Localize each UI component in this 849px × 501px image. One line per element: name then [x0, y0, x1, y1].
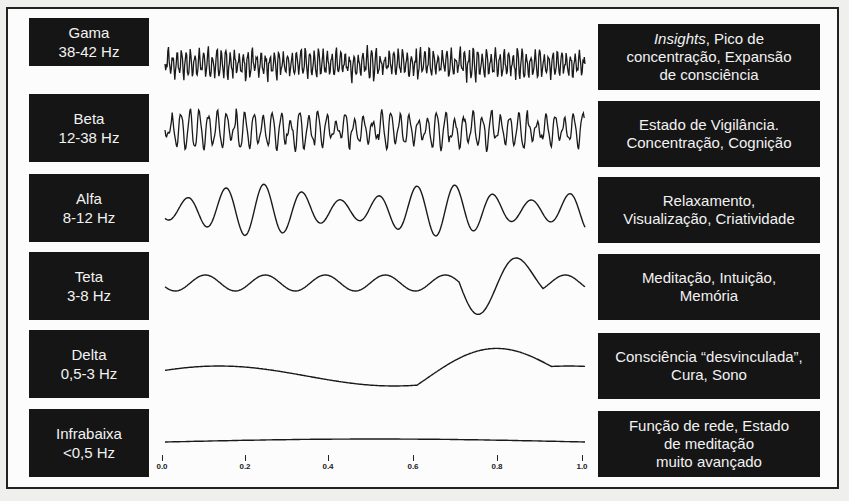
- waveform-gama: [165, 45, 585, 83]
- waveform-delta: [165, 348, 585, 386]
- axis-tick: 1.0: [567, 455, 597, 471]
- axis-tick: 0.4: [313, 455, 343, 471]
- waveform-canvas: [0, 0, 849, 501]
- waveform-alfa: [165, 184, 585, 236]
- axis-tick: 0.2: [230, 455, 260, 471]
- axis-tick: 0.6: [398, 455, 428, 471]
- waveform-beta: [165, 109, 584, 152]
- waveform-teta: [165, 258, 585, 314]
- axis-tick: 0.0: [147, 455, 177, 471]
- waveform-infrabaixa: [165, 439, 585, 442]
- axis-tick: 0.8: [482, 455, 512, 471]
